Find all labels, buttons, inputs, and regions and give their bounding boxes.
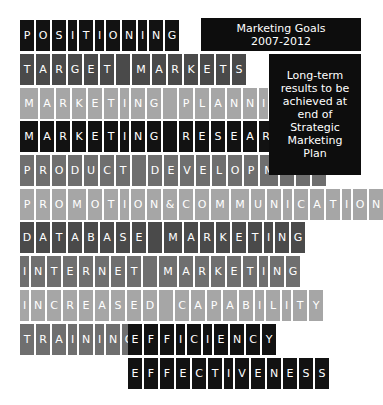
- letter-tile: U: [84, 155, 98, 186]
- letter-tile: D: [148, 155, 162, 186]
- letter-tile: S: [232, 54, 246, 85]
- letter-tile: A: [211, 88, 225, 119]
- letter-tile: G: [147, 88, 161, 119]
- letter-tile: C: [100, 155, 114, 186]
- letter-tile: T: [52, 222, 66, 253]
- letter-tile: T: [293, 290, 307, 321]
- letter-tile: E: [176, 358, 190, 389]
- letter-tile: B: [239, 290, 253, 321]
- letter-tile: N: [122, 20, 136, 51]
- letter-tile: T: [243, 256, 257, 287]
- long-term-results-box: Long-term results to be achieved at end …: [269, 54, 361, 175]
- letter-tile: K: [211, 256, 225, 287]
- letter-tile: E: [200, 54, 214, 85]
- letter-tile: Y: [309, 290, 323, 321]
- letter-tile: O: [228, 155, 242, 186]
- letter-tile: P: [20, 20, 34, 51]
- letter-tile: B: [84, 222, 98, 253]
- letter-tile: M: [68, 189, 86, 220]
- letter-tile: T: [216, 54, 230, 85]
- letter-tile: N: [31, 256, 45, 287]
- letter-tile: A: [179, 256, 193, 287]
- letter-tile: O: [131, 189, 145, 220]
- letter-tile: I: [224, 358, 233, 389]
- letter-tile: N: [131, 121, 145, 152]
- letter-tile: I: [68, 20, 77, 51]
- letter-tile: U: [251, 189, 265, 220]
- letter-tile: M: [231, 189, 249, 220]
- letter-tile: M: [20, 88, 38, 119]
- letter-tile: T: [20, 324, 34, 355]
- letter-tile: O: [36, 20, 50, 51]
- letter-tile: E: [227, 256, 241, 287]
- spacer-tile: [143, 256, 157, 287]
- letter-tile: I: [95, 20, 104, 51]
- letter-tile: E: [128, 324, 142, 355]
- letter-tile: I: [259, 88, 268, 119]
- letter-tile: E: [195, 121, 209, 152]
- letter-tile: S: [116, 222, 130, 253]
- goal-row-positioning: POSITIONING: [20, 20, 179, 51]
- letter-tile: O: [88, 189, 102, 220]
- letter-tile: C: [179, 189, 193, 220]
- letter-tile: T: [79, 20, 93, 51]
- letter-tile: T: [208, 358, 222, 389]
- goal-row-efficiency: EFFICIENCY: [128, 324, 276, 355]
- title-line-1: Marketing Goals: [236, 22, 325, 35]
- letter-tile: E: [88, 121, 102, 152]
- letter-tile: E: [227, 121, 241, 152]
- letter-tile: R: [63, 290, 77, 321]
- letter-tile: M: [164, 222, 182, 253]
- letter-tile: L: [212, 155, 226, 186]
- letter-tile: A: [191, 290, 205, 321]
- letter-tile: E: [63, 256, 77, 287]
- letter-tile: N: [267, 358, 281, 389]
- letter-tile: A: [68, 222, 82, 253]
- spacer-tile: [148, 222, 162, 253]
- letter-tile: N: [147, 189, 161, 220]
- marketing-goals-title-box: Marketing Goals 2007-2012: [201, 18, 361, 51]
- letter-tile: T: [248, 222, 262, 253]
- goal-row-training: TRAINING: [20, 324, 136, 355]
- letter-tile: T: [20, 54, 34, 85]
- letter-tile: I: [20, 290, 29, 321]
- letter-tile: S: [111, 290, 125, 321]
- letter-tile: G: [291, 222, 305, 253]
- letter-tile: A: [52, 324, 66, 355]
- letter-tile: M: [211, 189, 229, 220]
- letter-tile: I: [203, 324, 212, 355]
- letter-tile: L: [266, 290, 280, 321]
- letter-tile: T: [104, 88, 118, 119]
- letter-tile: O: [353, 189, 367, 220]
- letter-tile: C: [47, 290, 61, 321]
- side-line: end of: [281, 108, 350, 121]
- letter-tile: M: [20, 121, 38, 152]
- letter-tile: R: [36, 324, 50, 355]
- letter-tile: A: [223, 290, 237, 321]
- side-line: Marketing: [281, 134, 350, 147]
- letter-tile: M: [159, 256, 177, 287]
- letter-tile: S: [211, 121, 225, 152]
- letter-tile: I: [176, 324, 185, 355]
- letter-tile: I: [264, 222, 273, 253]
- letter-tile: V: [235, 358, 249, 389]
- letter-tile: N: [270, 256, 284, 287]
- letter-tile: I: [120, 88, 129, 119]
- letter-tile: T: [104, 121, 118, 152]
- letter-tile: G: [165, 20, 179, 51]
- side-line: Strategic: [281, 121, 350, 134]
- letter-tile: E: [128, 358, 142, 389]
- letter-tile: A: [184, 222, 198, 253]
- letter-tile: E: [88, 88, 102, 119]
- title-line-2: 2007-2012: [236, 35, 325, 48]
- letter-tile: F: [144, 324, 158, 355]
- letter-tile: E: [283, 358, 297, 389]
- letter-tile: I: [255, 290, 264, 321]
- letter-tile: A: [310, 189, 324, 220]
- side-line: Plan: [281, 147, 350, 160]
- letter-tile: N: [149, 20, 163, 51]
- letter-tile: R: [200, 222, 214, 253]
- letter-tile: E: [111, 256, 125, 287]
- letter-tile: S: [299, 358, 313, 389]
- letter-tile: T: [127, 256, 141, 287]
